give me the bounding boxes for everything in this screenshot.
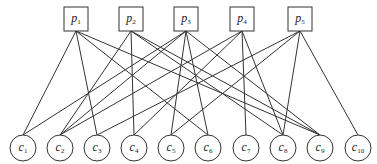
bottom-node-c5: c5 xyxy=(158,135,184,161)
top-node-layer: p1p2p3p4p5 xyxy=(64,7,312,31)
bottom-node-c1: c1 xyxy=(10,135,36,161)
top-node-p2: p2 xyxy=(119,7,143,31)
edge-p3-c6 xyxy=(186,31,208,135)
edge-layer xyxy=(23,31,358,135)
bottom-node-c4: c4 xyxy=(121,135,147,161)
edge-p5-c3 xyxy=(97,31,300,135)
edge-p4-c2 xyxy=(60,31,242,135)
bottom-node-c2: c2 xyxy=(47,135,73,161)
bottom-node-c9: c9 xyxy=(307,135,333,161)
edge-p3-c1 xyxy=(23,31,186,135)
edge-p4-c7 xyxy=(242,31,246,135)
edge-p3-c9 xyxy=(186,31,320,135)
bottom-node-c10: c10 xyxy=(345,135,371,161)
edge-p3-c5 xyxy=(171,31,186,135)
edge-p2-c4 xyxy=(131,31,134,135)
graph-svg: p1p2p3p4p5 c1c2c3c4c5c6c7c8c9c10 xyxy=(0,0,377,164)
edge-p1-c1 xyxy=(23,31,76,135)
top-node-p5: p5 xyxy=(288,7,312,31)
top-node-p3: p3 xyxy=(174,7,198,31)
edge-p2-c8 xyxy=(131,31,283,135)
top-node-p4: p4 xyxy=(230,7,254,31)
bottom-node-layer: c1c2c3c4c5c6c7c8c9c10 xyxy=(10,135,371,161)
edge-p5-c10 xyxy=(300,31,358,135)
bottom-node-c6: c6 xyxy=(195,135,221,161)
bottom-node-c7: c7 xyxy=(233,135,259,161)
bottom-node-c3: c3 xyxy=(84,135,110,161)
edge-p5-c5 xyxy=(171,31,300,135)
edge-p4-c8 xyxy=(242,31,283,135)
bottom-node-c8: c8 xyxy=(270,135,296,161)
top-node-p1: p1 xyxy=(64,7,88,31)
bipartite-diagram: p1p2p3p4p5 c1c2c3c4c5c6c7c8c9c10 xyxy=(0,0,377,164)
